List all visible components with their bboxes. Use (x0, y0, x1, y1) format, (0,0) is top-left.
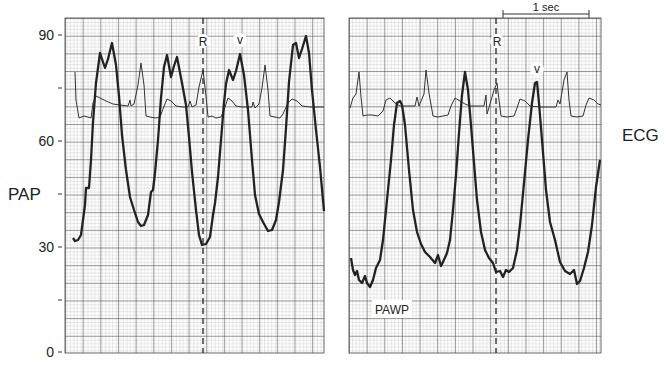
tick-0: 0 (46, 344, 54, 360)
svg-text:R: R (493, 35, 502, 49)
v-label-right: v (530, 62, 544, 76)
tick-60: 60 (38, 133, 54, 149)
pawp-label: PAWP (375, 303, 409, 317)
scale-bar-label: 1 sec (533, 1, 560, 13)
svg-text:v: v (237, 33, 243, 47)
ecg-label: ECG (622, 126, 659, 145)
y-axis-title: PAP (8, 185, 41, 204)
v-label-left: v (233, 33, 247, 47)
svg-text:v: v (534, 62, 540, 76)
svg-text:R: R (199, 35, 208, 49)
tick-90: 90 (38, 27, 54, 43)
y-axis (58, 35, 62, 352)
hemodynamic-chart: 90 60 30 0 PAP ECG 1 sec PAWP R v R v (0, 0, 670, 367)
tick-30: 30 (38, 239, 54, 255)
